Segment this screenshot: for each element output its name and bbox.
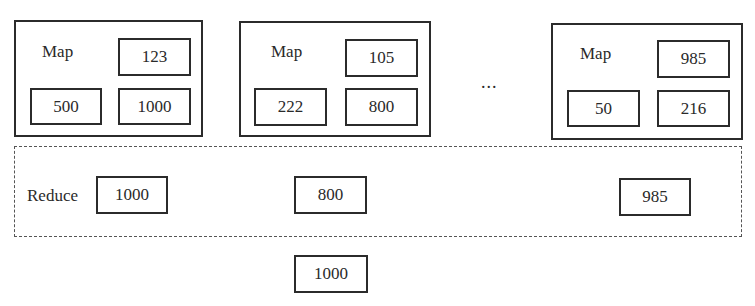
- reduce-value-1: 1000: [96, 176, 168, 214]
- reduce-label: Reduce: [27, 186, 78, 206]
- ellipsis: ...: [481, 72, 498, 93]
- map-node-1-value-bottom-left: 500: [30, 88, 102, 125]
- reduce-value-3: 985: [619, 178, 691, 216]
- map-node-3-value-bottom-right: 216: [657, 90, 730, 127]
- map-node-3-value-top: 985: [657, 40, 730, 78]
- map-node-2-value-bottom-right: 800: [345, 88, 418, 126]
- map-node-1-value-bottom-right: 1000: [118, 88, 191, 125]
- map-node-3-value-bottom-left: 50: [567, 90, 640, 127]
- map-node-1-value-top: 123: [118, 38, 191, 76]
- map-node-1-label: Map: [42, 42, 73, 62]
- map-node-2-value-bottom-left: 222: [254, 88, 327, 126]
- reduce-value-2: 800: [294, 176, 367, 214]
- map-node-2-label: Map: [271, 42, 302, 62]
- map-node-2-value-top: 105: [345, 39, 418, 77]
- map-node-3-label: Map: [580, 44, 611, 64]
- result-value: 1000: [294, 255, 368, 293]
